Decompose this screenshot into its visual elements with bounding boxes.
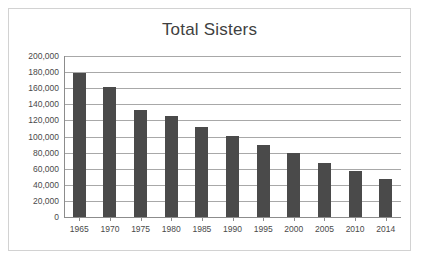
x-axis-tick — [79, 217, 80, 221]
x-axis-tick — [324, 217, 325, 221]
bar[interactable] — [103, 87, 116, 217]
bar-slot — [340, 56, 371, 217]
bar[interactable] — [73, 73, 86, 217]
y-axis-tick-label: 40,000 — [33, 181, 59, 190]
x-axis-tick-label: 2010 — [340, 224, 371, 234]
y-axis-tick-label: 180,000 — [28, 68, 59, 77]
x-axis-tick — [110, 217, 111, 221]
y-axis-tick-label: 100,000 — [28, 132, 59, 141]
x-axis-tick — [386, 217, 387, 221]
y-axis-tick-label: 0 — [54, 213, 59, 222]
x-axis-tick-label: 1975 — [125, 224, 156, 234]
x-axis-tick — [233, 217, 234, 221]
x-axis-tick — [171, 217, 172, 221]
x-axis-tick-label: 1980 — [156, 224, 187, 234]
y-axis-tick-label: 120,000 — [28, 116, 59, 125]
x-axis-tick-label: 2005 — [309, 224, 340, 234]
bar-slot — [309, 56, 340, 217]
bar-slot — [95, 56, 126, 217]
x-axis-tick — [294, 217, 295, 221]
x-axis-tick — [202, 217, 203, 221]
chart-frame: Total Sisters 200,000180,000160,000140,0… — [8, 8, 411, 251]
plot-wrapper: 200,000180,000160,000140,000120,000100,0… — [9, 9, 412, 252]
x-axis-tick-label: 1990 — [217, 224, 248, 234]
y-axis-tick-label: 140,000 — [28, 100, 59, 109]
y-axis-tick-label: 200,000 — [28, 52, 59, 61]
bar-slot — [64, 56, 95, 217]
bar[interactable] — [134, 110, 147, 217]
bar-slot — [217, 56, 248, 217]
bar-slot — [156, 56, 187, 217]
x-axis-tick-label: 2014 — [370, 224, 401, 234]
x-axis-tick-labels: 1965197019751980198519901995200020052010… — [64, 224, 401, 234]
bar-slot — [370, 56, 401, 217]
bar[interactable] — [349, 171, 362, 217]
bar[interactable] — [287, 153, 300, 217]
bar[interactable] — [318, 163, 331, 217]
x-axis-tick-label: 2000 — [278, 224, 309, 234]
bar-series — [64, 56, 401, 217]
y-axis-tick-label: 20,000 — [33, 197, 59, 206]
bar[interactable] — [226, 136, 239, 217]
bar-slot — [248, 56, 279, 217]
y-axis-tick-label: 160,000 — [28, 84, 59, 93]
x-axis-tick — [263, 217, 264, 221]
x-axis-tick-label: 1985 — [187, 224, 218, 234]
bar[interactable] — [195, 127, 208, 217]
x-axis-tick-label: 1970 — [95, 224, 126, 234]
bar-slot — [187, 56, 218, 217]
x-axis-tick — [141, 217, 142, 221]
y-axis-tick-label: 60,000 — [33, 164, 59, 173]
bar[interactable] — [379, 179, 392, 217]
y-axis-tick-label: 80,000 — [33, 148, 59, 157]
bar[interactable] — [165, 116, 178, 217]
x-axis-tick-label: 1965 — [64, 224, 95, 234]
x-axis-tick-label: 1995 — [248, 224, 279, 234]
bar[interactable] — [257, 145, 270, 217]
bar-slot — [125, 56, 156, 217]
x-axis-tick — [355, 217, 356, 221]
bar-slot — [278, 56, 309, 217]
